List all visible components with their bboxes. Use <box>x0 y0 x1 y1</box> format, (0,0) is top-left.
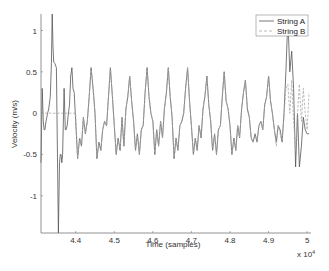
x-axis-label: Time (samples) <box>146 240 201 249</box>
x-axis-multiplier: x 104 <box>297 249 315 259</box>
y-axis-label: Velocity (m/s) <box>10 100 19 148</box>
x-tick-label: 4.5 <box>109 236 121 245</box>
legend: String A String B <box>256 15 308 36</box>
x-tick-label: 5 <box>305 236 310 245</box>
x-tick-label: 4.8 <box>224 236 236 245</box>
plot-area <box>41 14 309 233</box>
y-tick-label: -1 <box>30 192 38 201</box>
y-tick-label: 0.5 <box>26 68 38 77</box>
x-tick-label: 4.9 <box>263 236 275 245</box>
series-line-string-a <box>41 14 309 233</box>
y-tick-label: 0 <box>33 109 38 118</box>
y-tick-label: -0.5 <box>23 150 37 159</box>
legend-label-string-a: String A <box>277 17 306 26</box>
chart: 4.44.54.64.74.84.9510.50-0.5-1 String A … <box>0 0 329 271</box>
y-tick-label: 1 <box>33 27 38 36</box>
x-tick-label: 4.4 <box>70 236 82 245</box>
legend-label-string-b: String B <box>277 27 305 36</box>
